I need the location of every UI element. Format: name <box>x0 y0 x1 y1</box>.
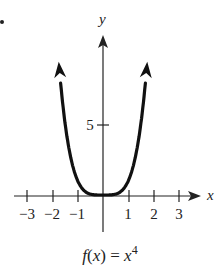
y-tick-label: 5 <box>86 117 94 133</box>
x-tick-label: −1 <box>69 206 85 222</box>
x-tick-label: −3 <box>19 206 35 222</box>
graph-canvas: x y −3 −2 −1 1 2 3 5 f(x) = x4 <box>0 0 221 274</box>
x-axis-label: x <box>206 187 214 203</box>
curve-arrow-right-icon <box>140 62 152 78</box>
list-bullet-dot <box>0 20 4 24</box>
y-axis-label: y <box>97 11 106 27</box>
function-caption: f(x) = x4 <box>82 243 137 265</box>
curve-arrow-left-icon <box>54 62 66 78</box>
x-tick-labels: −3 −2 −1 1 2 3 <box>19 206 183 222</box>
x-tick-label: −2 <box>44 206 60 222</box>
x-tick-label: 3 <box>175 206 183 222</box>
x-tick-label: 1 <box>124 206 132 222</box>
x-tick-label: 2 <box>150 206 158 222</box>
